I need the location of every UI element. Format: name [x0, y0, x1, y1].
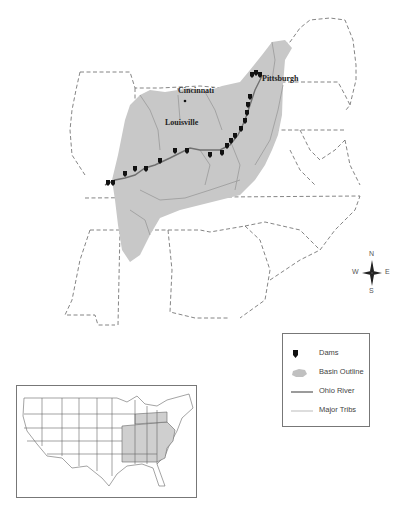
city-label-louisville: Louisville [165, 118, 198, 127]
basin-map [0, 0, 406, 330]
dam-icon [291, 349, 313, 359]
city-label-cincinnati: Cincinnati [178, 86, 214, 95]
legend-item-basin: Basin Outline [283, 366, 369, 380]
basin-outline-swatch [291, 368, 313, 378]
ohio-river-line [291, 387, 313, 397]
us-map [17, 386, 196, 497]
compass-n: N [369, 250, 374, 257]
compass-s: S [369, 287, 374, 294]
legend-item-ohio-river: Ohio River [283, 385, 369, 399]
city-label-pittsburgh: Pittsburgh [262, 74, 298, 83]
compass-rose: N S W E [352, 250, 392, 296]
major-tribs-line [291, 406, 313, 416]
legend-item-major-tribs: Major Tribs [283, 404, 369, 418]
compass-w: W [352, 268, 359, 275]
compass-e: E [385, 268, 390, 275]
us-inset-map [16, 385, 197, 498]
legend: Dams Basin Outline Ohio River Major Trib… [282, 333, 370, 427]
legend-item-dams: Dams [283, 347, 369, 361]
